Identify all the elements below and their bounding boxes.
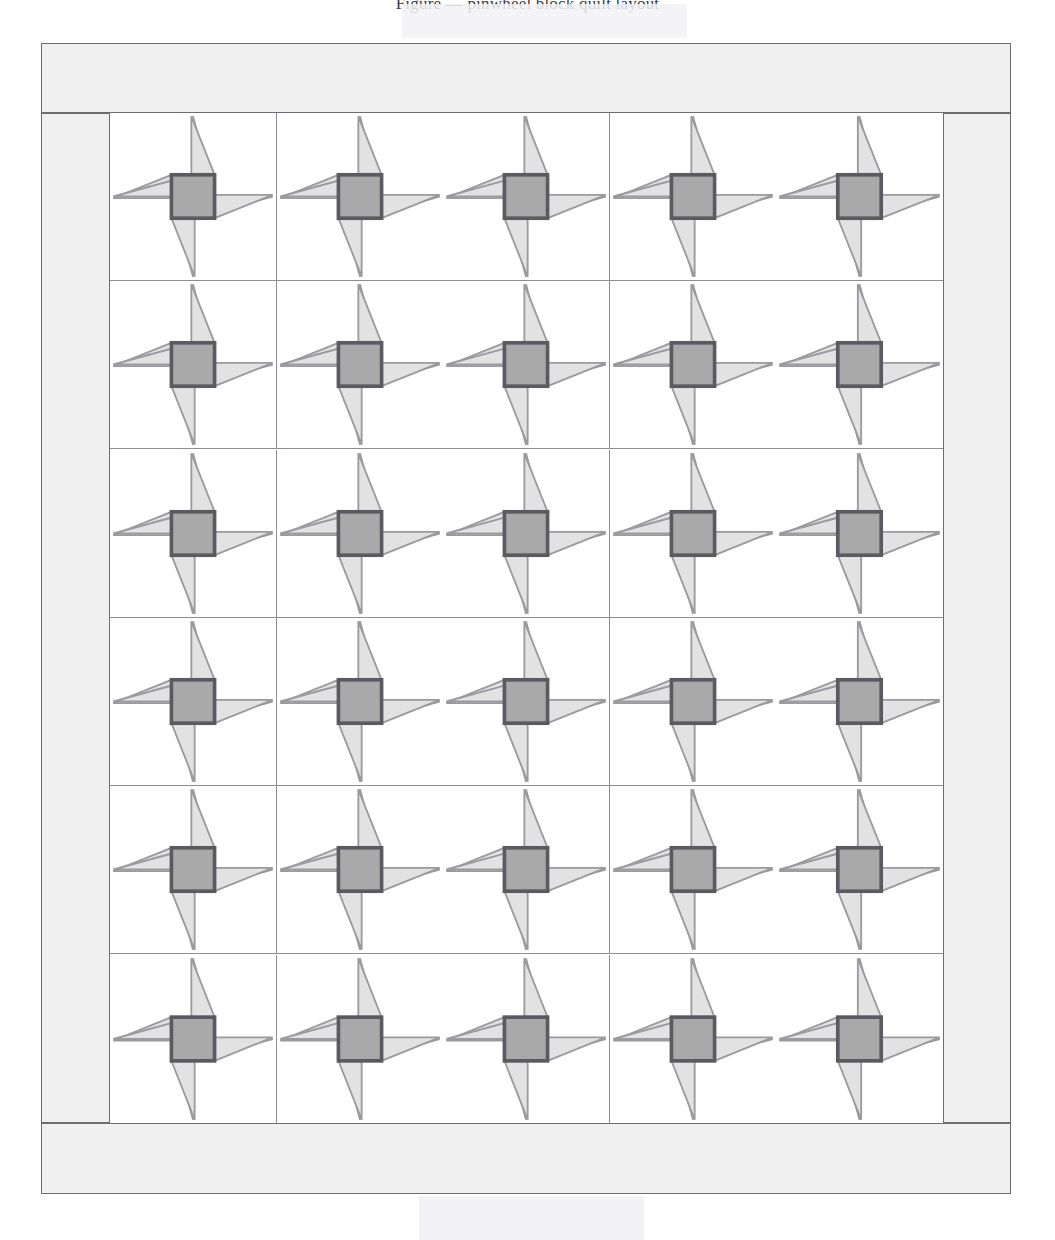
pinwheel-block <box>443 955 610 1123</box>
pinwheel-block <box>110 113 277 281</box>
pinwheel-block <box>110 618 277 786</box>
pinwheel-block <box>776 113 943 281</box>
pinwheel-block <box>277 786 444 954</box>
pinwheel-block <box>443 281 610 449</box>
pinwheel-block <box>776 450 943 618</box>
pinwheel-block <box>776 955 943 1123</box>
right-border-band <box>943 113 1011 1123</box>
pinwheel-block <box>776 281 943 449</box>
scan-watermark-bottom <box>419 1196 644 1240</box>
pinwheel-block <box>277 955 444 1123</box>
pinwheel-block <box>776 618 943 786</box>
pinwheel-block <box>277 450 444 618</box>
pinwheel-block <box>610 618 777 786</box>
pinwheel-block <box>610 113 777 281</box>
pinwheel-block <box>610 450 777 618</box>
pinwheel-block <box>443 786 610 954</box>
pinwheel-block <box>776 786 943 954</box>
pinwheel-block <box>110 281 277 449</box>
pinwheel-block <box>610 281 777 449</box>
block-grid <box>110 113 943 1123</box>
pinwheel-block <box>110 786 277 954</box>
pinwheel-block <box>610 955 777 1123</box>
pinwheel-block <box>110 450 277 618</box>
left-border-band <box>41 113 110 1123</box>
top-border-band <box>41 43 1011 113</box>
bottom-border-band <box>41 1123 1011 1194</box>
scan-watermark-top <box>402 4 687 38</box>
pinwheel-block <box>443 618 610 786</box>
pinwheel-block <box>277 618 444 786</box>
pinwheel-block <box>443 113 610 281</box>
pinwheel-block <box>610 786 777 954</box>
quilt-diagram <box>41 43 1011 1194</box>
pinwheel-block <box>277 113 444 281</box>
pinwheel-block <box>443 450 610 618</box>
pinwheel-block <box>277 281 444 449</box>
pinwheel-block <box>110 955 277 1123</box>
